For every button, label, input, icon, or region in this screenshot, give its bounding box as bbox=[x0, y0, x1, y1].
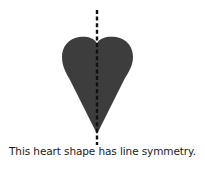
heart-diagram bbox=[0, 0, 205, 145]
symmetry-figure bbox=[0, 0, 205, 145]
caption-text: This heart shape has line symmetry. bbox=[0, 145, 205, 157]
